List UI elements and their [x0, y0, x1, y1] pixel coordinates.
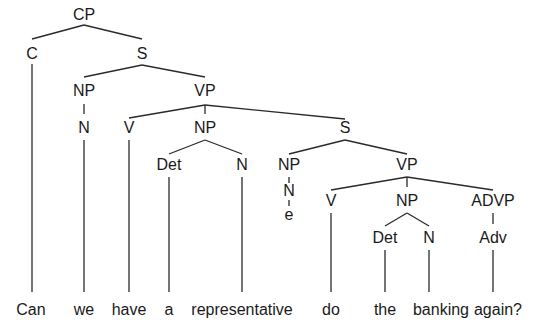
branch-s-np: [84, 65, 142, 77]
branch-np4-det: [385, 213, 407, 226]
node-v: V: [124, 119, 135, 136]
branch-vp2-advp: [407, 177, 493, 190]
branch-np-n2: [205, 140, 242, 154]
node-s: S: [137, 45, 148, 62]
branch-s2-vp: [345, 140, 407, 154]
word-we: we: [73, 301, 95, 318]
word-again: again?: [474, 301, 522, 318]
node-n: N: [78, 119, 90, 136]
node-c: C: [26, 45, 38, 62]
branch-s-vp: [142, 65, 205, 77]
syntax-tree-canvas: CP C S NP VP N V NP S Det N NP VP N e V …: [0, 0, 536, 327]
node-empty-e: e: [285, 206, 294, 223]
node-advp: ADVP: [471, 192, 515, 209]
tree-node-labels: CP C S NP VP N V NP S Det N NP VP N e V …: [26, 6, 515, 246]
branch-np-det: [169, 140, 205, 154]
node-vp: VP: [396, 156, 417, 173]
node-n: N: [423, 229, 435, 246]
branch-vp-s: [205, 105, 345, 119]
word-a: a: [165, 301, 174, 318]
word-do: do: [322, 301, 340, 318]
word-banking: banking: [413, 301, 469, 318]
branch-s2-np: [289, 140, 345, 154]
word-representative: representative: [191, 301, 292, 318]
node-adv: Adv: [479, 229, 507, 246]
node-det: Det: [373, 229, 398, 246]
node-np: NP: [73, 82, 95, 99]
node-cp: CP: [73, 6, 95, 23]
node-s: S: [340, 119, 351, 136]
branch-cp-s: [84, 25, 142, 39]
word-can: Can: [16, 301, 45, 318]
node-det: Det: [157, 156, 182, 173]
branch-vp2-v: [331, 177, 407, 190]
node-vp: VP: [194, 82, 215, 99]
tree-branches: [32, 25, 493, 292]
syntax-tree-diagram: CP C S NP VP N V NP S Det N NP VP N e V …: [0, 0, 536, 327]
node-np: NP: [278, 156, 300, 173]
branch-cp-c: [32, 25, 84, 39]
word-the: the: [374, 301, 396, 318]
node-n: N: [236, 156, 248, 173]
node-n: N: [283, 182, 295, 199]
node-np: NP: [396, 192, 418, 209]
node-np: NP: [194, 119, 216, 136]
word-have: have: [112, 301, 147, 318]
branch-np4-n: [407, 213, 429, 226]
node-v: V: [326, 192, 337, 209]
branch-vp-v: [129, 105, 205, 118]
sentence-words: Can we have a representative do the bank…: [16, 301, 522, 318]
